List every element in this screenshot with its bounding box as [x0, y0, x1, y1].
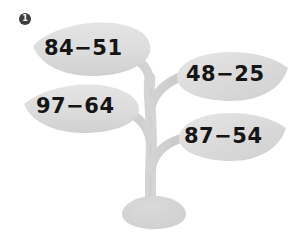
plant-illustration — [0, 0, 296, 234]
item-number-badge: 1 — [19, 13, 31, 25]
leaf-top-left — [33, 23, 150, 76]
leaf-middle-left — [24, 85, 139, 133]
leaf-bottom-right — [179, 113, 286, 161]
leaf-middle-right — [177, 52, 288, 101]
plant-pot — [122, 196, 186, 229]
worksheet-canvas: 1 84−51 48−25 97−64 87−54 — [0, 0, 296, 234]
